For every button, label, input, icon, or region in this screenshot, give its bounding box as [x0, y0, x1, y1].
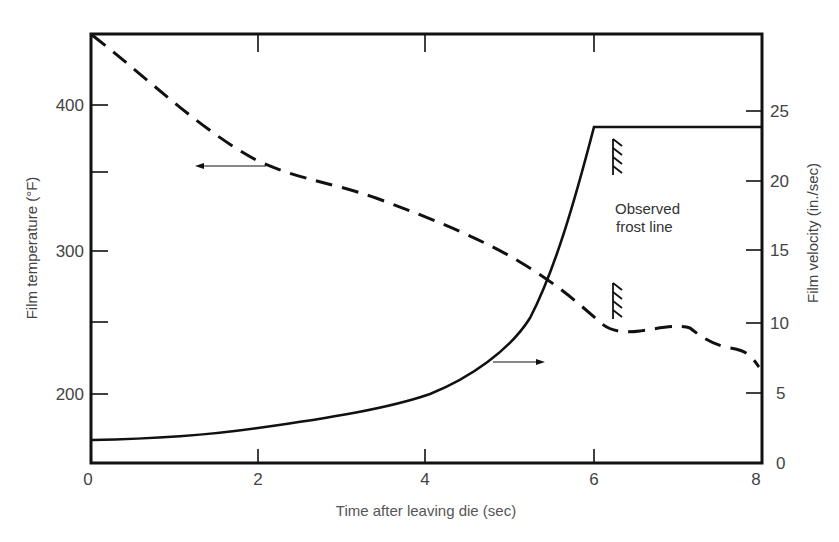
y-left-tick-300: 300 [56, 242, 84, 261]
y-left-ticks [91, 105, 108, 394]
x-tick-2: 2 [253, 470, 262, 489]
y-right-ticks [746, 111, 762, 393]
x-tick-6: 6 [589, 470, 598, 489]
x-axis-title: Time after leaving die (sec) [336, 502, 516, 519]
frost-line-hatch-upper [613, 139, 622, 175]
arrow-left-icon [195, 163, 266, 169]
y-right-tick-25: 25 [770, 102, 789, 121]
x-tick-0: 0 [83, 470, 92, 489]
y-right-tick-5: 5 [776, 384, 785, 403]
y-right-tick-20: 20 [770, 172, 789, 191]
y-left-tick-400: 400 [56, 96, 84, 115]
frost-line-hatch-lower [613, 283, 622, 319]
y-right-tick-0: 0 [776, 454, 785, 473]
chart: 400 300 200 25 20 15 10 5 0 0 2 4 6 8 Ti… [0, 0, 839, 542]
x-tick-4: 4 [420, 470, 429, 489]
arrow-right-icon [493, 359, 545, 365]
y-right-tick-15: 15 [770, 241, 789, 260]
x-tick-8: 8 [751, 470, 760, 489]
velocity-curve [92, 127, 762, 440]
x-ticks-bottom [258, 449, 594, 463]
annotation-observed: Observed [615, 200, 680, 217]
y-right-tick-10: 10 [770, 314, 789, 333]
plot-frame [91, 34, 762, 463]
x-ticks-top [258, 34, 594, 52]
annotation-frost-line: frost line [616, 218, 673, 235]
y-right-axis-title: Film velocity (in./sec) [804, 163, 821, 303]
y-left-axis-title: Film temperature (°F) [23, 177, 40, 320]
y-left-tick-200: 200 [56, 385, 84, 404]
